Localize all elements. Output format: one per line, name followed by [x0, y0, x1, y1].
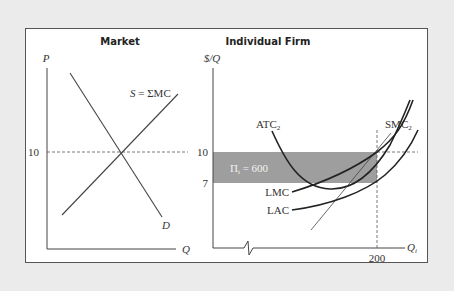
demand-label: D — [161, 219, 170, 231]
figure-frame — [26, 29, 428, 263]
market-price-tick: 10 — [28, 146, 40, 158]
firm-quantity-tick: 200 — [369, 252, 386, 264]
supply-label: S = ΣMC — [130, 87, 171, 99]
market-y-axis-label: P — [42, 52, 50, 64]
lac-label: LAC — [267, 204, 289, 216]
lmc-label: LMC — [265, 186, 289, 198]
market-title: Market — [100, 36, 140, 47]
supply-label-rest: = ΣMC — [136, 87, 171, 99]
firm-y-axis-label: $/Q — [204, 52, 221, 64]
firm-title: Individual Firm — [226, 36, 311, 47]
firm-price-tick-low: 7 — [203, 177, 209, 189]
economics-diagram: Market P Q 10 S = ΣMC D Individual Firm … — [0, 0, 454, 291]
market-x-axis-label: Q — [182, 243, 190, 255]
profit-label: Πi = 600 — [230, 162, 269, 176]
firm-price-tick-high: 10 — [197, 146, 209, 158]
